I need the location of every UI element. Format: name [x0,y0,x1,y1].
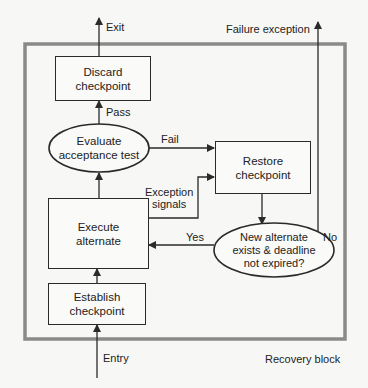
no-label: No [323,231,337,244]
pass-label: Pass [106,106,130,119]
execute-label-1: Execute [78,221,120,233]
discard-checkpoint-node: Discardcheckpoint [55,56,151,101]
execute-label-2: alternate [76,235,121,247]
entry-label: Entry [103,352,129,365]
failure-exception-label: Failure exception [226,23,310,36]
discard-label-1: Discard [84,66,123,78]
exception-label-1: Exception [145,186,193,198]
decision-node: New alternateexists & deadlinenot expire… [214,223,334,277]
exception-label-2: signals [152,198,186,210]
decision-label-3: not expired? [244,257,305,269]
no-failure-arrow [318,22,334,247]
discard-label-2: checkpoint [76,80,131,92]
evaluate-label-1: Evaluate [77,135,122,147]
recovery-block-label: Recovery block [265,353,340,366]
evaluate-acceptance-test-node: Evaluateacceptance test [49,124,149,172]
restore-checkpoint-node: Restorecheckpoint [215,141,311,194]
establish-label-2: checkpoint [70,305,125,317]
decision-label-1: New alternate [240,231,308,243]
exit-label: Exit [106,21,124,34]
yes-label: Yes [186,231,204,244]
evaluate-label-2: acceptance test [59,149,140,161]
restore-label-1: Restore [243,155,283,167]
establish-label-1: Establish [74,291,121,303]
execute-alternate-node: Executealternate [48,198,149,269]
fail-label: Fail [161,133,179,146]
establish-checkpoint-node: Establishcheckpoint [48,283,146,325]
restore-label-2: checkpoint [236,169,291,181]
decision-label-2: exists & deadline [232,244,315,256]
exception-signals-label: Exceptionsignals [145,186,193,210]
